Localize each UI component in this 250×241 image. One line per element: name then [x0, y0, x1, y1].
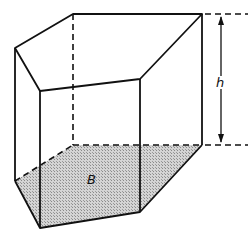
arrow-down-icon [218, 134, 224, 143]
base-label: B [87, 172, 96, 187]
prism-diagram: h B [0, 0, 250, 241]
height-dimension [205, 14, 248, 145]
base-face [15, 145, 202, 228]
arrow-up-icon [218, 16, 224, 25]
height-label: h [216, 75, 224, 90]
